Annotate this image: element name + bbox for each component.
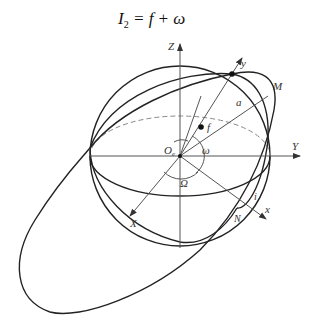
label-x: x xyxy=(264,203,270,215)
label-i: i xyxy=(254,191,257,202)
satellite-point xyxy=(229,71,235,77)
label-X: X xyxy=(129,217,138,229)
label-N: N xyxy=(233,213,242,224)
orbital-elements-diagram: I2 = f + ω Z Y X y x M a f ω Ω Oe i N xyxy=(0,0,317,327)
label-M: M xyxy=(272,80,283,92)
label-y: y xyxy=(240,57,246,69)
label-Z: Z xyxy=(168,40,175,52)
label-omega: ω xyxy=(202,144,210,156)
label-origin: Oe xyxy=(164,144,175,158)
origin-point xyxy=(178,154,182,158)
label-Omega: Ω xyxy=(180,177,188,189)
line-to-M xyxy=(180,96,268,156)
radius-line xyxy=(180,96,201,156)
X-axis xyxy=(130,156,180,216)
formula-title: I2 = f + ω xyxy=(117,9,185,30)
focus-point xyxy=(198,124,204,130)
label-Y: Y xyxy=(292,140,300,152)
x-axis-node-line xyxy=(180,156,266,219)
f-arc xyxy=(174,140,188,142)
label-a: a xyxy=(236,96,242,108)
orbit-plane-circle-lower xyxy=(90,150,237,243)
label-f: f xyxy=(207,121,212,133)
